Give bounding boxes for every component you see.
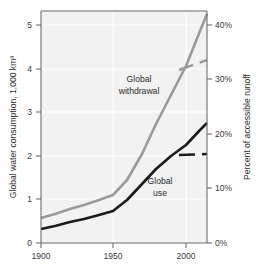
- annotation-global-withdrawal-line1: Global: [127, 74, 152, 84]
- y2tick-label-10: 10%: [215, 183, 232, 193]
- annotation-global-use-line1: Global: [148, 176, 173, 186]
- ytick-label-0: 0: [27, 238, 32, 248]
- y-axis-title: Global water consumption, 1,000 km³: [8, 56, 18, 198]
- ytick-label-3: 3: [27, 107, 32, 117]
- ytick-label-5: 5: [27, 20, 32, 30]
- xtick-label-2000: 2000: [177, 251, 196, 261]
- chart-svg: 5 4 3 2 1 0 40% 30% 20% 10% 0% 1900 1950…: [0, 0, 266, 269]
- y2tick-label-0: 0%: [215, 238, 228, 248]
- bottom-axis-ticks: [41, 243, 186, 248]
- ytick-label-1: 1: [27, 194, 32, 204]
- left-axis-ticks: [36, 25, 41, 243]
- y2tick-label-40: 40%: [215, 20, 232, 30]
- xtick-label-1900: 1900: [32, 251, 51, 261]
- right-axis-ticks: [207, 25, 212, 243]
- xtick-label-1950: 1950: [104, 251, 123, 261]
- y2tick-label-20: 20%: [215, 129, 232, 139]
- ytick-label-2: 2: [27, 151, 32, 161]
- annotation-global-withdrawal-line2: withdrawal: [118, 86, 160, 96]
- ytick-label-4: 4: [27, 64, 32, 74]
- series-line-global-use-projection: [179, 154, 207, 155]
- y2tick-label-30: 30%: [215, 74, 232, 84]
- annotation-global-use-line2: use: [153, 188, 167, 198]
- plot-area-background: [41, 11, 207, 243]
- water-consumption-chart: 5 4 3 2 1 0 40% 30% 20% 10% 0% 1900 1950…: [0, 0, 266, 269]
- y2-axis-title: Percent of accessible runoff: [242, 73, 252, 180]
